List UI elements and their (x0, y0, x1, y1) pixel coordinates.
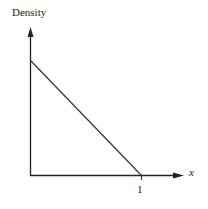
x-axis-arrow-icon (173, 173, 184, 179)
density-line (31, 61, 142, 176)
y-axis-arrow-icon (28, 27, 34, 37)
x-axis-label: x (189, 166, 194, 178)
y-axis (28, 27, 34, 176)
chart-canvas (0, 0, 208, 209)
x-axis (30, 173, 184, 181)
y-axis-label: Density (12, 6, 46, 18)
x-tick-label: 1 (137, 183, 143, 195)
